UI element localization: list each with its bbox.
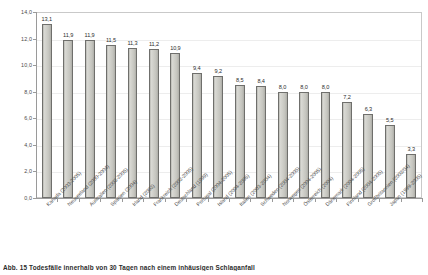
y-axis-tick-label: 10,0	[0, 62, 32, 68]
bar-value-label: 8,0	[315, 84, 336, 90]
x-axis-tick-mark	[272, 199, 273, 202]
bar-value-label: 3,3	[401, 146, 422, 152]
y-axis-line	[36, 12, 37, 199]
gridline	[37, 93, 421, 94]
x-axis-tick-mark	[229, 199, 230, 202]
y-axis-tick-label: 12,0	[0, 36, 32, 42]
x-axis-tick-mark	[186, 199, 187, 202]
y-axis-tick-label: 8,0	[0, 89, 32, 95]
bar-value-label: 9,2	[208, 68, 229, 74]
y-axis-tick-mark	[33, 39, 36, 40]
bar-value-label: 8,4	[250, 78, 271, 84]
y-axis-tick-mark	[33, 92, 36, 93]
bar-value-label: 11,5	[100, 37, 121, 43]
x-axis-tick-mark	[422, 199, 423, 202]
gridline	[37, 66, 421, 67]
y-axis-tick-mark	[33, 65, 36, 66]
bar	[63, 40, 73, 198]
bar-value-label: 9,4	[186, 65, 207, 71]
bar	[149, 49, 159, 198]
bar-value-label: 11,2	[143, 41, 164, 47]
bar-value-label: 5,5	[379, 117, 400, 123]
y-axis-tick-label: 0,0	[0, 195, 32, 201]
gridline	[37, 40, 421, 41]
bar-value-label: 11,3	[122, 40, 143, 46]
bar	[128, 48, 138, 198]
x-axis-tick-mark	[315, 199, 316, 202]
bar-value-label: 7,2	[336, 94, 357, 100]
x-axis-tick-mark	[122, 199, 123, 202]
y-axis-tick-mark	[33, 171, 36, 172]
bar-value-label: 8,0	[272, 84, 293, 90]
x-axis-tick-mark	[401, 199, 402, 202]
y-axis-tick-label: 4,0	[0, 142, 32, 148]
x-axis-tick-mark	[165, 199, 166, 202]
x-axis-tick-mark	[336, 199, 337, 202]
bar-value-label: 11,9	[79, 32, 100, 38]
figure-caption: Abb. 15 Todesfälle innerhalb von 30 Tage…	[3, 264, 427, 271]
x-axis-tick-mark	[358, 199, 359, 202]
x-axis-tick-mark	[100, 199, 101, 202]
x-axis-tick-mark	[208, 199, 209, 202]
y-axis-tick-label: 2,0	[0, 168, 32, 174]
y-axis-tick-mark	[33, 145, 36, 146]
x-axis-tick-mark	[57, 199, 58, 202]
stroke-mortality-bar-chart: 0,02,04,06,08,010,012,014,0 13,111,911,9…	[0, 0, 428, 275]
bar	[42, 24, 52, 198]
bar-value-label: 8,0	[293, 84, 314, 90]
y-axis-tick-mark	[33, 12, 36, 13]
y-axis-tick-label: 6,0	[0, 115, 32, 121]
bar-value-label: 11,9	[57, 32, 78, 38]
x-axis-tick-mark	[143, 199, 144, 202]
y-axis-tick-mark	[33, 198, 36, 199]
y-axis-tick-label: 14,0	[0, 9, 32, 15]
y-axis-tick-mark	[33, 118, 36, 119]
bar-value-label: 6,3	[358, 106, 379, 112]
bar-value-label: 10,9	[165, 45, 186, 51]
x-axis-tick-mark	[79, 199, 80, 202]
bar-value-label: 8,5	[229, 77, 250, 83]
x-axis-tick-mark	[250, 199, 251, 202]
x-axis-tick-mark	[293, 199, 294, 202]
x-axis-tick-mark	[379, 199, 380, 202]
bar-value-label: 13,1	[36, 16, 57, 22]
